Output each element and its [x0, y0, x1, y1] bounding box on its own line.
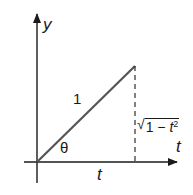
radicand-prefix: 1 − — [146, 119, 170, 135]
adjacent-side-label: t — [97, 166, 102, 183]
t-axis-label: t — [176, 138, 181, 155]
hypotenuse-label: 1 — [73, 91, 81, 106]
angle-theta-label: θ — [60, 140, 68, 155]
radical-sign: √ — [137, 117, 145, 131]
triangle-diagram: y t t 1 θ √ 1 − t2 — [0, 0, 193, 195]
opposite-side-label: √ 1 − t2 — [137, 117, 179, 134]
radicand-exponent: 2 — [173, 119, 178, 129]
hypotenuse-line — [37, 66, 135, 162]
radicand: 1 − t2 — [145, 118, 180, 134]
y-axis-label: y — [43, 16, 52, 33]
